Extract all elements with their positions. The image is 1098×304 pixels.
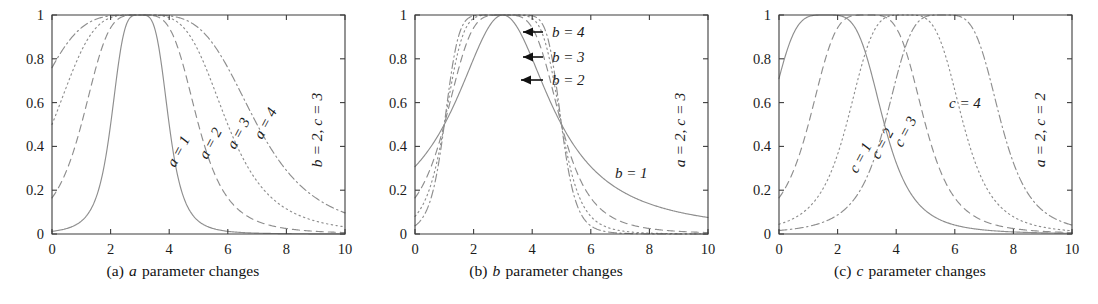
- panel-b-caption-param: b: [492, 262, 502, 279]
- panel-c: 024681000.20.40.60.81 c = 1 c = 2 c = 3 …: [727, 0, 1093, 304]
- panel-b-annotations: b = 4 b = 3 b = 2 b = 1 a = 2, c = 3: [521, 24, 688, 181]
- curve-a3: [52, 15, 345, 227]
- curve-label-b4: b = 4: [552, 24, 585, 40]
- panel-c-caption-suffix: parameter changes: [869, 262, 986, 279]
- y-tick-label: 0.6: [389, 95, 407, 111]
- arrow-to-b4: [523, 28, 543, 37]
- curve-label-b1: b = 1: [615, 165, 648, 181]
- y-tick-label: 0: [400, 226, 407, 242]
- curve-b1: [415, 15, 708, 217]
- x-tick-label: 6: [224, 241, 231, 257]
- curve-b4: [415, 15, 708, 234]
- x-tick-label: 8: [1010, 241, 1017, 257]
- y-tick-label: 0.6: [26, 95, 44, 111]
- x-tick-label: 2: [107, 241, 114, 257]
- x-tick-label: 0: [48, 241, 55, 257]
- arrow-to-b3: [523, 53, 543, 62]
- panel-c-caption: (c) c parameter changes: [727, 262, 1093, 280]
- y-tick-label: 1: [764, 7, 771, 23]
- panel-a-axes: 024681000.20.40.60.81: [26, 7, 352, 257]
- curve-label-c4: c = 4: [949, 95, 981, 111]
- panel-b-caption-prefix: (b): [469, 262, 487, 279]
- y-tick-label: 1: [37, 7, 44, 23]
- y-tick-label: 0: [764, 226, 771, 242]
- panel-c-plot: 024681000.20.40.60.81 c = 1 c = 2 c = 3 …: [727, 0, 1093, 268]
- y-tick-label: 0.8: [753, 51, 771, 67]
- panel-c-caption-prefix: (c): [834, 262, 852, 279]
- y-tick-label: 0.4: [389, 138, 408, 154]
- panel-b-plot: 024681000.20.40.60.81 b = 4 b = 3 b = 2 …: [363, 0, 729, 268]
- panel-a-caption: (a) a parameter changes: [0, 262, 366, 280]
- x-tick-label: 10: [1065, 241, 1080, 257]
- panel-c-caption-param: c: [856, 262, 865, 279]
- panel-c-fixed-params-note: a = 2, c = 2: [1031, 93, 1048, 168]
- curve-a4: [52, 15, 345, 213]
- x-tick-label: 2: [470, 241, 477, 257]
- x-tick-label: 8: [283, 241, 290, 257]
- x-tick-label: 4: [529, 241, 537, 257]
- y-tick-label: 0.6: [753, 95, 771, 111]
- x-tick-label: 8: [646, 241, 653, 257]
- curve-label-a3: a = 3: [224, 115, 253, 151]
- x-tick-label: 6: [951, 241, 958, 257]
- x-tick-label: 4: [166, 241, 174, 257]
- y-tick-label: 0.4: [753, 138, 772, 154]
- figure-three-panel-gbell-parameters: 024681000.20.40.60.81 a = 1 a = 2 a = 3 …: [0, 0, 1098, 304]
- x-tick-label: 2: [834, 241, 841, 257]
- panel-c-annotations: c = 1 c = 2 c = 3 c = 4 a = 2, c = 2: [846, 93, 1048, 176]
- y-tick-label: 0.8: [389, 51, 407, 67]
- y-tick-label: 0.4: [26, 138, 45, 154]
- panel-b-caption: (b) b parameter changes: [363, 262, 729, 280]
- curve-label-b3: b = 3: [552, 49, 585, 65]
- y-tick-label: 0: [37, 226, 44, 242]
- panel-b-axes: 024681000.20.40.60.81: [389, 7, 715, 257]
- panel-a-caption-param: a: [128, 262, 138, 279]
- curve-label-a4: a = 4: [251, 105, 281, 142]
- curve-c2: [779, 15, 1072, 233]
- panel-c-curves: [779, 15, 1072, 233]
- panel-a: 024681000.20.40.60.81 a = 1 a = 2 a = 3 …: [0, 0, 366, 304]
- panel-a-annotations: a = 1 a = 2 a = 3 a = 4 b = 2, c = 3: [164, 93, 325, 170]
- curve-label-a1: a = 1: [164, 133, 193, 169]
- y-tick-label: 1: [400, 7, 407, 23]
- panel-b: 024681000.20.40.60.81 b = 4 b = 3 b = 2 …: [363, 0, 729, 304]
- panel-a-curves: [52, 15, 345, 234]
- panel-a-plot: 024681000.20.40.60.81 a = 1 a = 2 a = 3 …: [0, 0, 366, 268]
- panel-b-curves: [415, 15, 708, 234]
- x-tick-label: 4: [893, 241, 901, 257]
- curve-a2: [52, 15, 345, 233]
- y-tick-label: 0.2: [389, 182, 407, 198]
- panel-b-fixed-params-note: a = 2, c = 3: [671, 93, 688, 168]
- x-tick-label: 0: [411, 241, 418, 257]
- curve-label-b2: b = 2: [552, 72, 585, 88]
- x-tick-label: 0: [775, 241, 782, 257]
- panel-b-caption-suffix: parameter changes: [505, 262, 622, 279]
- panel-a-caption-suffix: parameter changes: [142, 262, 259, 279]
- x-tick-label: 10: [338, 241, 353, 257]
- panel-a-caption-prefix: (a): [107, 262, 125, 279]
- y-tick-label: 0.2: [26, 182, 44, 198]
- curve-label-c3: c = 3: [891, 114, 920, 150]
- x-tick-label: 6: [587, 241, 594, 257]
- x-tick-label: 10: [701, 241, 716, 257]
- curve-label-a2: a = 2: [196, 125, 226, 162]
- y-tick-label: 0.8: [26, 51, 44, 67]
- y-tick-label: 0.2: [753, 182, 771, 198]
- panel-a-fixed-params-note: b = 2, c = 3: [308, 93, 325, 168]
